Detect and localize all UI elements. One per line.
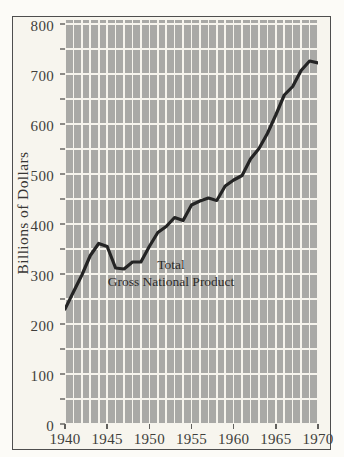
y-tick-mark [60,48,65,50]
y-tick-label-100: 100 [8,368,54,385]
y-tick-mark [60,298,65,300]
y-tick-mark [60,348,65,350]
x-tick-mark [64,424,66,429]
y-tick-mark [60,173,65,175]
x-tick-mark [275,424,277,429]
x-tick-mark [233,424,235,429]
gnp-line-svg [65,20,318,424]
y-tick-label-200: 200 [8,318,54,335]
y-tick-label-400: 400 [8,218,54,235]
x-tick-label-1940: 1940 [49,431,80,448]
y-tick-mark [60,398,65,400]
x-tick-label-1960: 1960 [218,431,249,448]
y-tick-mark [60,373,65,375]
annotation-line-2: Gross National Product [108,273,235,290]
x-tick-label-1955: 1955 [176,431,207,448]
x-tick-mark [149,424,151,429]
x-tick-mark [191,424,193,429]
x-tick-label-1945: 1945 [92,431,123,448]
y-tick-label-700: 700 [8,68,54,85]
x-tick-label-1970: 1970 [302,431,333,448]
y-tick-label-500: 500 [8,168,54,185]
x-tick-mark [106,424,108,429]
y-tick-mark [60,248,65,250]
y-tick-mark [60,73,65,75]
y-tick-mark [60,223,65,225]
y-tick-mark [60,323,65,325]
y-tick-mark [60,123,65,125]
y-tick-label-800: 800 [8,18,54,35]
y-tick-label-0: 0 [8,418,54,435]
y-tick-mark [60,23,65,25]
page: Billions of Dollars Total Gross National… [0,0,344,457]
y-tick-mark [60,273,65,275]
y-tick-mark [60,98,65,100]
y-tick-mark [60,148,65,150]
annotation-line-1: Total [108,256,235,273]
y-tick-label-300: 300 [8,268,54,285]
x-tick-label-1965: 1965 [260,431,291,448]
y-tick-label-600: 600 [8,118,54,135]
y-tick-mark [60,198,65,200]
x-tick-mark [317,424,319,429]
x-tick-label-1950: 1950 [134,431,165,448]
annotation-gnp: Total Gross National Product [108,256,235,290]
